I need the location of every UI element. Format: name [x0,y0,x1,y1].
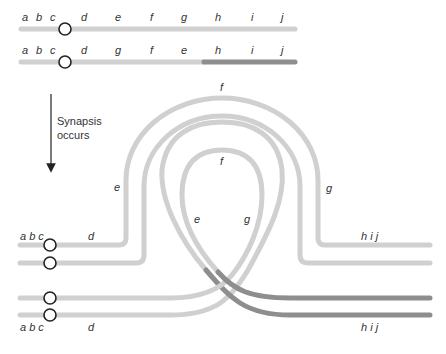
gene-label: a [22,44,28,56]
gene-label: d [81,11,88,23]
caption-line-1: Synapsis [57,115,102,127]
gene-label: c [50,11,56,23]
synapsis-arrow: Synapsis occurs [51,94,102,168]
inner-chromatid-dark [218,272,430,298]
gene-label: b [36,44,42,56]
label-abc-lower: a b c [20,321,44,333]
gene-label: a [22,11,28,23]
centromere-icon [44,257,56,269]
gene-label: d [81,44,88,56]
caption-line-2: occurs [57,129,90,141]
loop-label-g-inner: g [244,213,251,225]
gene-label: e [181,44,187,56]
label-abc-upper: a b c [20,230,44,242]
third-chromatid-dark [206,270,430,315]
centromere-icon [44,292,56,304]
gene-label: e [115,11,121,23]
gene-label: i [251,11,254,23]
loop-label-e-outer: e [114,181,120,193]
inverted-chromosome: a b c d g f e h i j [21,44,295,68]
centromere-icon [44,309,56,321]
inner-chromatid-light [20,150,262,298]
gene-label: h [215,44,221,56]
gene-label: g [115,44,122,56]
label-hij-lower: h i j [361,321,379,333]
loop-label-g-outer: g [326,182,333,194]
gene-label: f [150,44,154,56]
gene-label: i [251,44,254,56]
centromere-icon [59,23,71,35]
label-d-upper: d [88,230,95,242]
centromere-icon [44,239,56,251]
normal-chromosome: a b c d e f g h i j [21,11,295,35]
label-hij-upper: h i j [361,230,379,242]
loop-label-f-inner: f [220,155,224,167]
label-d-lower: d [88,321,95,333]
gene-label: h [215,11,221,23]
gene-label: f [150,11,154,23]
loop-label-e-inner: e [194,213,200,225]
gene-label: b [36,11,42,23]
loop-label-f-outer: f [220,81,224,93]
inversion-loop-diagram: a b c d e f g h i j a b c d g f e h i j … [0,0,446,354]
gene-label: j [279,44,284,56]
centromere-icon [59,56,71,68]
gene-label: g [181,11,188,23]
gene-label: j [279,11,284,23]
gene-label: c [50,44,56,56]
